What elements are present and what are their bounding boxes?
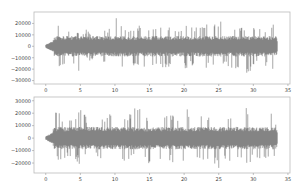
- waveform-axes-channel-2: 051015202530353000020000100000−10000−200…: [11, 97, 291, 182]
- x-tick-label: 15: [146, 176, 152, 182]
- x-tick-label: 5: [79, 176, 82, 182]
- x-tick-label: 30: [250, 87, 256, 93]
- x-tick-label: 25: [216, 176, 222, 182]
- x-tick-label: 35: [285, 176, 291, 182]
- x-tick-label: 0: [44, 176, 47, 182]
- waveform-axes-channel-1: 0510152025303520000100000−10000−20000−30…: [11, 12, 291, 93]
- y-tick-label: −20000: [11, 66, 31, 72]
- x-tick-label: 5: [79, 87, 82, 93]
- y-tick-label: 20000: [15, 110, 31, 116]
- y-tick-label: 10000: [15, 122, 31, 128]
- y-tick-label: 0: [28, 135, 31, 141]
- y-tick-label: −10000: [11, 55, 31, 61]
- x-tick-label: 25: [216, 87, 222, 93]
- y-tick-label: −30000: [11, 77, 31, 83]
- x-tick-label: 10: [112, 176, 118, 182]
- x-tick-label: 15: [146, 87, 152, 93]
- y-tick-label: 30000: [15, 98, 31, 104]
- x-tick-label: 0: [44, 87, 47, 93]
- y-tick-label: −20000: [11, 160, 31, 166]
- y-tick-label: 20000: [15, 20, 31, 26]
- x-tick-label: 35: [285, 87, 291, 93]
- waveform-trace: [46, 18, 278, 72]
- x-tick-label: 20: [181, 87, 187, 93]
- waveform-trace: [46, 108, 278, 168]
- x-tick-label: 20: [181, 176, 187, 182]
- y-tick-label: −10000: [11, 147, 31, 153]
- y-tick-label: 0: [28, 43, 31, 49]
- y-tick-label: 10000: [15, 32, 31, 38]
- x-tick-label: 30: [250, 176, 256, 182]
- figure: 0510152025303520000100000−10000−20000−30…: [0, 0, 301, 184]
- x-tick-label: 10: [112, 87, 118, 93]
